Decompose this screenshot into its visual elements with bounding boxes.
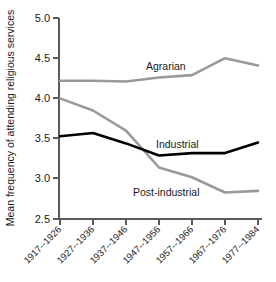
chart-figure: 5.0 4.5 4.0 3.5 3.0 2.5 1917--1926 1927-… [0, 0, 276, 282]
series-label-agrarian: Agrarian [146, 60, 186, 72]
y-axis-title: Mean frequency of attending religious se… [4, 10, 16, 227]
y-tick-label: 3.0 [35, 172, 50, 184]
y-tick-label: 4.5 [35, 52, 50, 64]
y-tick-label: 2.5 [35, 213, 50, 225]
series-label-industrial: Industrial [156, 138, 199, 150]
line-chart: 5.0 4.5 4.0 3.5 3.0 2.5 1917--1926 1927-… [0, 0, 276, 282]
series-label-post-industrial: Post-industrial [133, 186, 200, 198]
y-tick-label: 4.0 [35, 92, 50, 104]
y-tick-label: 5.0 [35, 12, 50, 24]
y-tick-label: 3.5 [35, 132, 50, 144]
